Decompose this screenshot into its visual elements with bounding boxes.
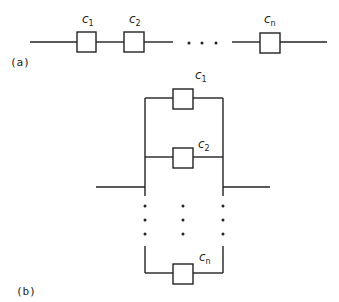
reliability-diagram: c1 c2 cn (a) c1 c2 cn ( <box>0 0 339 302</box>
label-c2-parallel: c2 <box>198 137 210 153</box>
component-cn-parallel <box>173 264 193 284</box>
component-c1-series <box>77 32 96 52</box>
label-c1-series: c1 <box>82 12 94 28</box>
component-c2-parallel <box>173 148 193 168</box>
ellipsis-dot <box>188 42 191 45</box>
caption-b: (b) <box>16 285 36 298</box>
component-c1-parallel <box>173 89 193 109</box>
vertical-ellipsis <box>144 205 225 236</box>
label-c2-series: c2 <box>129 12 141 28</box>
label-cn-series: cn <box>264 12 276 28</box>
caption-a: (a) <box>10 56 30 69</box>
component-cn-series <box>260 33 280 53</box>
parallel-system: c1 c2 cn (b) <box>16 68 270 298</box>
component-c2-series <box>124 32 144 52</box>
label-cn-parallel: cn <box>199 250 211 266</box>
ellipsis-dot <box>201 42 204 45</box>
label-c1-parallel: c1 <box>195 68 207 84</box>
ellipsis-dot <box>215 42 218 45</box>
series-system: c1 c2 cn (a) <box>10 12 327 69</box>
